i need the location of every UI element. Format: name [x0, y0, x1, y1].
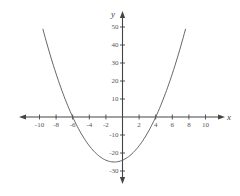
y-tick-label: 50	[112, 23, 120, 31]
x-tick-label: 6	[171, 121, 175, 129]
y-axis-down-arrow-icon	[120, 177, 125, 184]
x-tick-label: 8	[187, 121, 191, 129]
x-tick-label: 4	[154, 121, 158, 129]
x-tick-label: 10	[202, 121, 210, 129]
y-tick-label: 40	[112, 41, 120, 49]
y-tick-label: 20	[112, 77, 120, 85]
x-axis-label: x	[226, 112, 231, 122]
y-axis-up-arrow-icon	[120, 11, 125, 18]
y-tick-label: -30	[109, 167, 119, 175]
y-tick-label: -10	[109, 131, 119, 139]
x-tick-label: -10	[35, 121, 45, 129]
y-tick-label: 30	[112, 59, 120, 67]
y-tick-label: -20	[109, 149, 119, 157]
x-axis-left-arrow-icon	[19, 114, 26, 119]
x-tick-label: -2	[103, 121, 109, 129]
parabola-chart: -10-8-6-4-2246810 5040302010-10-20-30 x …	[0, 0, 240, 196]
x-axis-right-arrow-icon	[218, 114, 225, 119]
chart-canvas: -10-8-6-4-2246810 5040302010-10-20-30 x …	[0, 0, 240, 196]
x-tick-label: 2	[137, 121, 141, 129]
x-tick-label: -8	[53, 121, 59, 129]
y-tick-label: 10	[112, 95, 120, 103]
x-tick-label: -4	[86, 121, 92, 129]
y-axis-label: y	[110, 9, 115, 19]
y-axis	[120, 11, 125, 184]
